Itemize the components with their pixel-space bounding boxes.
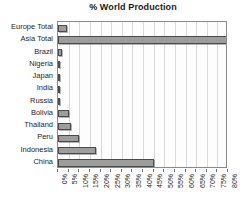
x-tick bbox=[131, 169, 132, 172]
bar-row bbox=[58, 34, 227, 46]
y-label-india: India bbox=[37, 84, 53, 92]
y-label-japan: Japan bbox=[33, 72, 53, 80]
bar-row bbox=[58, 96, 60, 108]
x-label-0pct: 0% bbox=[61, 174, 68, 184]
y-label-peru: Peru bbox=[37, 133, 53, 141]
x-tick bbox=[121, 169, 122, 172]
x-tick bbox=[100, 169, 101, 172]
x-label-5pct: 5% bbox=[71, 174, 78, 184]
x-label-70pct: 70% bbox=[209, 174, 216, 188]
bar-india bbox=[58, 86, 60, 93]
x-tick bbox=[78, 169, 79, 172]
x-tick bbox=[195, 169, 196, 172]
y-label-bolivia: Bolivia bbox=[31, 109, 53, 117]
bar-row bbox=[58, 157, 154, 168]
x-label-20pct: 20% bbox=[103, 174, 110, 188]
x-tick bbox=[153, 169, 154, 172]
bar-row bbox=[58, 47, 62, 59]
bar-row bbox=[58, 22, 67, 34]
x-label-10pct: 10% bbox=[82, 174, 89, 188]
bar-europe-total bbox=[58, 25, 67, 32]
bar-thailand bbox=[58, 123, 71, 130]
x-label-40pct: 40% bbox=[146, 174, 153, 188]
x-tick bbox=[227, 169, 228, 172]
y-label-china: China bbox=[33, 158, 53, 166]
bar-indonesia bbox=[58, 147, 96, 154]
bar-row bbox=[58, 83, 60, 95]
bar-peru bbox=[58, 135, 79, 142]
bar-row bbox=[58, 145, 96, 157]
bar-china bbox=[58, 159, 154, 167]
bar-row bbox=[58, 120, 71, 132]
x-tick bbox=[110, 169, 111, 172]
x-tick bbox=[174, 169, 175, 172]
x-label-50pct: 50% bbox=[167, 174, 174, 188]
y-label-indonesia: Indonesia bbox=[20, 146, 53, 154]
y-label-nigeria: Nigeria bbox=[29, 60, 53, 68]
y-label-brazil: Brazil bbox=[34, 48, 53, 56]
x-tick bbox=[57, 169, 58, 172]
bar-row bbox=[58, 108, 69, 120]
x-label-35pct: 35% bbox=[135, 174, 142, 188]
bar-russia bbox=[58, 98, 60, 105]
bar-row bbox=[58, 71, 60, 83]
x-label-55pct: 55% bbox=[177, 174, 184, 188]
x-label-65pct: 65% bbox=[199, 174, 206, 188]
bar-row bbox=[58, 59, 60, 71]
bar-nigeria bbox=[58, 61, 60, 68]
bar-asia-total bbox=[58, 36, 227, 44]
y-label-asia-total: Asia Total bbox=[21, 35, 53, 43]
x-label-45pct: 45% bbox=[156, 174, 163, 188]
x-tick bbox=[142, 169, 143, 172]
bar-bolivia bbox=[58, 110, 69, 117]
x-tick bbox=[185, 169, 186, 172]
bar-japan bbox=[58, 74, 60, 81]
bar-brazil bbox=[58, 49, 62, 56]
y-axis-category-labels: Europe TotalAsia TotalBrazilNigeriaJapan… bbox=[0, 21, 55, 168]
x-tick bbox=[206, 169, 207, 172]
x-tick bbox=[216, 169, 217, 172]
plot-area bbox=[57, 21, 227, 168]
x-tick bbox=[89, 169, 90, 172]
y-label-europe-total: Europe Total bbox=[11, 23, 53, 31]
y-label-thailand: Thailand bbox=[24, 121, 53, 129]
x-label-15pct: 15% bbox=[92, 174, 99, 188]
bar-chart: % World Production Europe TotalAsia Tota… bbox=[0, 0, 240, 203]
x-label-75pct: 75% bbox=[220, 174, 227, 188]
bar-row bbox=[58, 132, 79, 144]
x-label-80pct: 80% bbox=[231, 174, 238, 188]
chart-title: % World Production bbox=[0, 2, 240, 12]
x-tick bbox=[163, 169, 164, 172]
x-axis-tick-labels: 0%5%10%15%20%25%30%35%40%45%50%55%60%65%… bbox=[0, 169, 240, 203]
x-tick bbox=[68, 169, 69, 172]
x-label-30pct: 30% bbox=[124, 174, 131, 188]
x-label-60pct: 60% bbox=[188, 174, 195, 188]
y-label-russia: Russia bbox=[30, 97, 53, 105]
x-label-25pct: 25% bbox=[114, 174, 121, 188]
